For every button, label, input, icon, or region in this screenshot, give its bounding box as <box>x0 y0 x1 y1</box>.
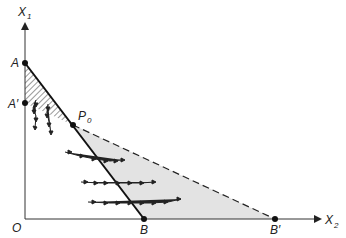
y-axis-label-sub: 1 <box>27 12 31 21</box>
x-axis-label-sub: 2 <box>333 221 339 230</box>
point-A-prime <box>22 100 28 106</box>
label-P0: P <box>78 109 86 123</box>
label-P0-sub: 0 <box>87 116 92 125</box>
y-axis-label: X <box>17 5 27 19</box>
production-possibility-diagram: X 1 X 2 O A A′ P 0 B B′ <box>0 0 346 238</box>
label-B-prime: B′ <box>270 223 281 237</box>
x-axis-label: X <box>324 213 334 227</box>
x-axis-arrow-icon <box>314 215 322 223</box>
point-B <box>141 216 147 222</box>
label-A: A <box>10 56 19 70</box>
point-B-prime <box>272 216 278 222</box>
origin-label: O <box>12 221 21 235</box>
line-A-B <box>25 63 144 219</box>
point-P0 <box>70 122 76 128</box>
label-A-prime: A′ <box>7 97 19 111</box>
y-axis-arrow-icon <box>21 22 29 30</box>
point-A <box>22 60 28 66</box>
label-B: B <box>140 223 148 237</box>
